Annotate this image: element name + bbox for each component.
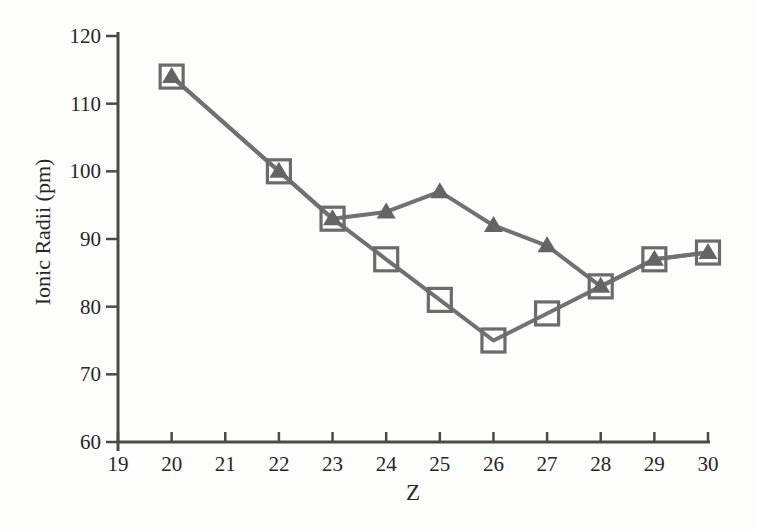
y-tick-label: 90	[80, 227, 101, 251]
x-tick-label: 23	[322, 452, 343, 476]
y-tick-label: 70	[80, 362, 101, 386]
y-tick-label: 100	[70, 159, 102, 183]
y-tick-label: 80	[80, 295, 101, 319]
series-line-triangle	[172, 77, 708, 287]
x-tick-label: 24	[376, 452, 398, 476]
x-tick-label: 21	[215, 452, 236, 476]
series-line-square	[172, 77, 708, 341]
marker-triangle	[430, 182, 449, 198]
x-tick-label: 27	[537, 452, 558, 476]
chart-plot-area: 6070809010011012019202122232425262728293…	[70, 24, 720, 476]
x-tick-label: 25	[429, 452, 450, 476]
scanned-chart-figure: 6070809010011012019202122232425262728293…	[0, 0, 757, 530]
x-tick-label: 22	[268, 452, 289, 476]
x-tick-label: 30	[698, 452, 719, 476]
x-tick-label: 19	[108, 452, 129, 476]
y-tick-label: 60	[80, 430, 101, 454]
x-axis-title: Z	[406, 480, 420, 505]
marker-triangle	[484, 216, 503, 232]
x-tick-label: 29	[644, 452, 665, 476]
x-tick-label: 28	[590, 452, 611, 476]
y-axis-title: Ionic Radii (pm)	[30, 159, 55, 306]
x-tick-label: 26	[483, 452, 504, 476]
y-tick-label: 120	[70, 24, 102, 48]
y-tick-label: 110	[70, 92, 101, 116]
ionic-radii-chart: 6070809010011012019202122232425262728293…	[0, 0, 757, 530]
marker-triangle	[699, 243, 718, 259]
marker-triangle	[162, 67, 181, 83]
x-tick-label: 20	[161, 452, 182, 476]
